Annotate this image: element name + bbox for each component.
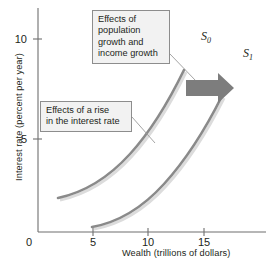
x-tick-label-10: 10 [142, 236, 154, 248]
callout-line: growth and [98, 37, 165, 48]
origin-label: 0 [26, 236, 32, 248]
curve-label-s1: S1 [243, 46, 253, 62]
interest-rate-rise-callout: Effects of a rise in the interest rate [40, 101, 132, 132]
callout-line: Effects of a rise [46, 105, 127, 116]
population-income-growth-callout: Effects of population growth and income … [92, 10, 170, 64]
x-tick-label-5: 5 [90, 236, 96, 248]
callout-line: Effects of [98, 14, 165, 25]
x-axis-title: Wealth (trillions of dollars) [122, 248, 230, 258]
curve-s0 [58, 70, 184, 198]
x-tick-label-15: 15 [198, 236, 210, 248]
callout-line: income growth [98, 48, 165, 59]
callout-line: in the interest rate [46, 116, 127, 127]
supply-of-loanable-funds-chart: 10 5 0 5 10 15 S0 S1 Interest rate (perc… [0, 0, 270, 264]
y-axis-title: Interest rate (percent per year) [14, 42, 24, 192]
curve-label-s0: S0 [201, 29, 211, 45]
callout-line: population [98, 25, 165, 36]
